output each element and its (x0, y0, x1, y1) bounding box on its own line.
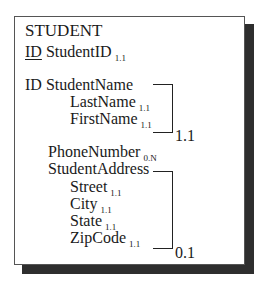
attribute-name: FirstName (70, 110, 138, 127)
attribute-name: LastName (70, 93, 136, 110)
attribute-zip-code: ZipCode1.1 (70, 229, 140, 249)
entity-name: STUDENT (25, 21, 102, 40)
cardinality: 1.1 (129, 239, 140, 249)
attribute-name: PhoneNumber (48, 143, 140, 160)
attribute-name: StudentName (46, 76, 133, 93)
group-cardinality: 1.1 (175, 127, 195, 144)
attribute-student-address: StudentAddress (48, 160, 149, 177)
cardinality: 1.1 (110, 188, 121, 198)
attribute-name: ZipCode (70, 229, 126, 246)
attribute-student-name: ID StudentName (25, 76, 133, 93)
identifier-marker: ID (25, 76, 42, 93)
group-bracket-student-address (153, 171, 173, 249)
attribute-student-id: ID StudentID1.1 (25, 43, 126, 63)
group-cardinality: 0.1 (175, 244, 195, 261)
attribute-name: City (70, 195, 98, 212)
attribute-name: StudentID (46, 43, 112, 60)
entity-title: STUDENT (25, 22, 102, 39)
attribute-name: Street (70, 178, 107, 195)
cardinality: 1.1 (141, 120, 152, 130)
attribute-first-name: FirstName1.1 (70, 110, 152, 130)
identifier-marker: ID (25, 43, 42, 60)
attribute-name: StudentAddress (48, 160, 149, 177)
cardinality: 1.1 (115, 53, 126, 63)
attribute-name: State (70, 212, 102, 229)
group-bracket-student-name (153, 84, 173, 133)
